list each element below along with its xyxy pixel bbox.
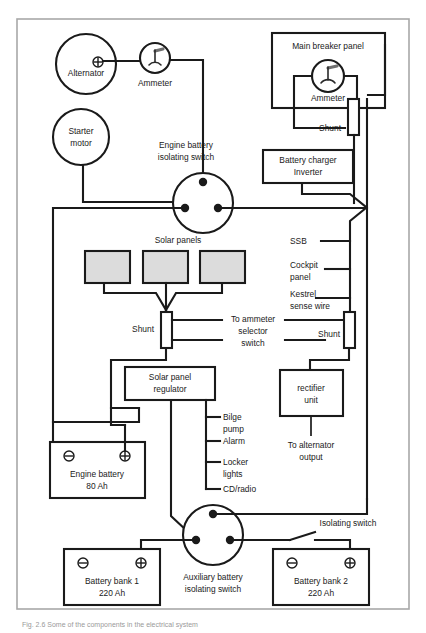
alternator-label: Alternator [68,68,105,78]
bank1-positive-terminal-icon [136,558,146,568]
rectifier-label-line2: unit [304,395,318,405]
rectifier-unit: rectifier unit [280,370,343,416]
figure-caption: Fig. 2.6 Some of the components in the e… [22,621,198,629]
switch-terminal-top [199,178,207,186]
alternator-positive-terminal-icon [93,57,103,67]
engine-ammeter: Ammeter [138,43,172,88]
solar-panel-3 [200,251,245,283]
engine-battery: Engine battery 80 Ah [50,442,145,498]
selector-label-line3: switch [241,338,265,348]
load-locker-line2: lights [223,469,243,479]
panel-ammeter-label: Ammeter [311,93,345,103]
cockpit-panel-label-line1: Cockpit [290,260,319,270]
right-shunt-label: Shunt [318,329,341,339]
engine-isolating-switch-label-line2: isolating switch [158,152,215,162]
solar-panels-label: Solar panels [155,235,202,245]
solar-panel-2 [143,251,188,283]
cockpit-panel-label-line2: panel [290,272,311,282]
selector-label-line1: To ammeter [231,314,275,324]
battery-bank-2-label: Battery bank 2 [294,576,348,586]
load-bilge-line1: Bilge [223,412,242,422]
battery-bank-2: Battery bank 2 220 Ah [273,549,369,605]
aux-switch-terminal-left [192,536,200,544]
battery-bank-1: Battery bank 1 220 Ah [64,549,160,605]
starter-motor: Starter motor [53,109,109,165]
load-locker-line1: Locker [223,457,248,467]
engine-battery-capacity: 80 Ah [86,481,108,491]
engine-battery-positive-terminal-icon [120,451,130,461]
aux-isolating-switch-label-line1: Auxiliary battery [183,572,243,582]
battery-bank-1-capacity: 220 Ah [99,588,125,598]
battery-charger-label-line2: Inverter [294,167,323,177]
starter-motor-label-line2: motor [70,138,92,148]
engine-isolating-switch-label-line1: Engine battery [159,140,214,150]
engine-ammeter-label: Ammeter [138,78,172,88]
solar-regulator-label-line2: regulator [153,384,186,394]
kestrel-label-line1: Kestrel [290,289,316,299]
wiring-diagram-figure: Alternator Starter motor Ammeter Engine … [0,0,426,633]
auxiliary-battery-isolating-switch[interactable]: Auxiliary battery isolating switch [183,505,244,594]
aux-switch-terminal-right [226,536,234,544]
isolating-switch-label: Isolating switch [320,518,377,528]
switch-terminal-left [181,204,189,212]
to-alternator-output-line2: output [299,452,323,462]
battery-bank-1-label: Battery bank 1 [85,576,139,586]
load-bilge-line2: pump [223,424,244,434]
aux-isolating-switch-label-line2: isolating switch [185,584,242,594]
panel-shunt-label: Shunt [319,123,342,133]
aux-switch-terminal-top [209,510,217,518]
switch-terminal-right [214,204,222,212]
selector-label-line2: selector [238,326,268,336]
bank2-positive-terminal-icon [345,558,355,568]
ssb-label: SSB [290,236,307,246]
panel-ammeter: Ammeter [311,60,345,103]
solar-panel-1 [85,251,130,283]
solar-regulator-label-line1: Solar panel [149,372,192,382]
battery-charger-inverter: Battery charger Inverter [263,150,353,183]
battery-charger-label-line1: Battery charger [279,155,336,165]
battery-bank-2-capacity: 220 Ah [308,588,334,598]
engine-battery-label: Engine battery [70,469,125,479]
rectifier-label-line1: rectifier [297,383,325,393]
starter-motor-label-line1: Starter [68,126,93,136]
main-breaker-panel-label: Main breaker panel [292,41,364,51]
solar-shunt-label: Shunt [132,324,155,334]
to-alternator-output-line1: To alternator [288,440,335,450]
load-alarm-line1: Alarm [223,436,245,446]
solar-panel-regulator: Solar panel regulator [125,367,215,400]
kestrel-label-line2: sense wire [290,301,330,311]
alternator: Alternator [56,34,116,94]
load-cdradio-line1: CD/radio [223,484,256,494]
